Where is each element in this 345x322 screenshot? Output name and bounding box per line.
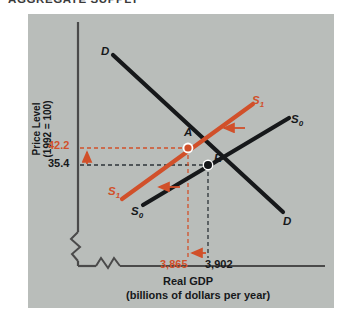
curve-label-s1-top: S1 xyxy=(252,94,264,109)
curve-label-s0-top: S0 xyxy=(291,113,303,128)
y-axis-title-line1: Price Level xyxy=(31,69,42,189)
y-axis-title: Price Level (1992 = 100) xyxy=(31,69,53,189)
y-tick-label-35-4: 35.4 xyxy=(48,157,69,169)
x-tick-label-3902: 3,902 xyxy=(205,258,233,270)
curve-label-d-bottom: D xyxy=(283,215,291,227)
curve-label-d-top: D xyxy=(101,45,109,57)
y-axis-title-line2: (1992 = 100) xyxy=(42,69,53,189)
curve-label-s1-bottom: S1 xyxy=(108,185,120,200)
curve-label-s0-bottom-base: S xyxy=(131,205,139,217)
equilibrium-label-e: E xyxy=(214,152,222,164)
curve-label-s0-bottom: S0 xyxy=(131,205,143,220)
equilibrium-point-a xyxy=(183,143,194,154)
curve-label-s1-bottom-base: S xyxy=(108,185,116,197)
equilibrium-label-a: A xyxy=(184,126,192,138)
equilibrium-point-e xyxy=(203,160,214,171)
curve-label-s1-top-base: S xyxy=(252,94,260,106)
x-axis-title-line1: Real GDP xyxy=(163,275,213,287)
curve-label-s0-top-base: S xyxy=(291,113,299,125)
x-tick-label-3865: 3,865 xyxy=(160,258,188,270)
curve-label-s0-bottom-sub: 0 xyxy=(139,211,143,220)
curve-label-s1-bottom-sub: 1 xyxy=(116,191,120,200)
y-axis xyxy=(71,22,80,266)
curve-label-s0-top-sub: 0 xyxy=(299,119,303,128)
figure-container: AGGREGATE SUPPLY xyxy=(0,0,345,322)
y-tick-label-42-2: 42.2 xyxy=(48,139,69,151)
x-axis-title-line2: (billions of dollars per year) xyxy=(126,289,270,301)
curve-label-s1-top-sub: 1 xyxy=(260,100,264,109)
x-axis xyxy=(78,258,325,268)
